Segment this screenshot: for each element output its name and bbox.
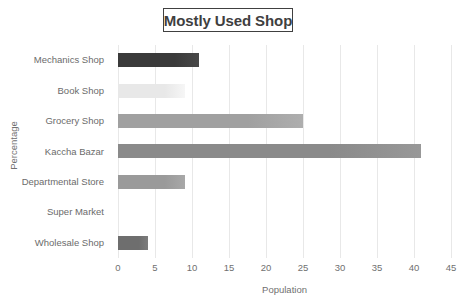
- x-tick-label: 35: [357, 262, 397, 273]
- x-tick-label: 15: [209, 262, 249, 273]
- x-tick-label: 40: [394, 262, 434, 273]
- category-label: Mechanics Shop: [0, 53, 111, 67]
- x-axis-tick-labels: 051015202530354045: [0, 262, 461, 278]
- category-label: Book Shop: [0, 84, 111, 98]
- x-tick-label: 5: [135, 262, 175, 273]
- x-tick-label: 20: [246, 262, 286, 273]
- x-tick-label: 25: [283, 262, 323, 273]
- x-axis-title: Population: [118, 284, 451, 295]
- x-tick-label: 45: [431, 262, 461, 273]
- category-label: Departmental Store: [0, 175, 111, 189]
- category-label: Kaccha Bazar: [0, 145, 111, 159]
- x-tick-label: 30: [320, 262, 360, 273]
- x-tick-label: 10: [172, 262, 212, 273]
- category-label: Wholesale Shop: [0, 236, 111, 250]
- category-axis-labels: Mechanics ShopBook ShopGrocery ShopKacch…: [0, 45, 461, 258]
- x-tick-label: 0: [98, 262, 138, 273]
- category-label: Super Market: [0, 205, 111, 219]
- bar-chart: Mostly Used Shop Percentage Mechanics Sh…: [0, 0, 461, 307]
- chart-title: Mostly Used Shop: [163, 8, 293, 32]
- category-label: Grocery Shop: [0, 114, 111, 128]
